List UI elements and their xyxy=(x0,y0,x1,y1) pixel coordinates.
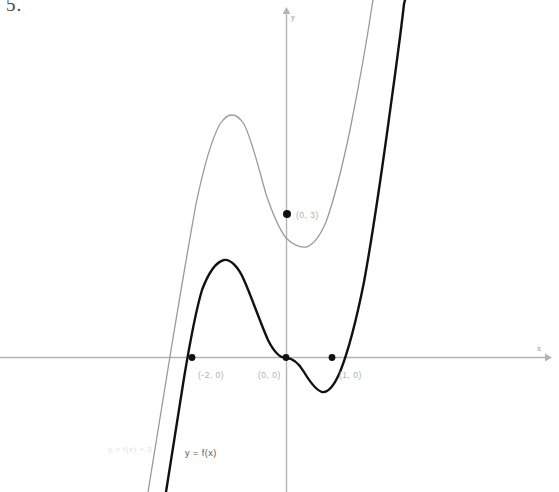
label-curve-original: y = f(x) xyxy=(185,448,217,458)
marked-points xyxy=(189,210,336,361)
coordinate-plane: x y (-2, 0) (0, 0) (1, 0) (0, 3) y = f(x… xyxy=(0,0,559,492)
label-curve-shifted: y = f(x) + 3 xyxy=(108,445,152,454)
y-axis-label: y xyxy=(291,13,295,22)
x-axis-label: x xyxy=(537,344,541,353)
point-root-left xyxy=(189,354,196,361)
point-root-right xyxy=(329,354,336,361)
curve-original xyxy=(166,0,405,492)
label-root-right: (1, 0) xyxy=(339,370,362,380)
y-axis-arrow xyxy=(283,7,291,14)
point-origin xyxy=(283,354,290,361)
curve-shifted xyxy=(148,0,373,492)
y-axis: y xyxy=(283,7,295,492)
x-axis-arrow xyxy=(545,354,552,362)
label-root-origin: (0, 0) xyxy=(258,370,281,380)
label-root-left: (-2, 0) xyxy=(198,370,224,380)
label-shifted-intercept: (0, 3) xyxy=(296,210,319,220)
point-shifted-intercept xyxy=(283,210,291,218)
graph-figure: 5. x y (-2, 0) (0, 0) (1, 0) (0, 3) xyxy=(0,0,559,492)
